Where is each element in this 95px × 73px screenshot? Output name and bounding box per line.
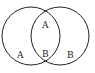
label-right-only: B <box>67 50 74 60</box>
label-left-only: A <box>16 50 24 60</box>
label-overlap-bottom: B <box>42 49 49 59</box>
venn-diagram: A A B B <box>0 0 95 73</box>
label-overlap-top: A <box>41 20 49 30</box>
